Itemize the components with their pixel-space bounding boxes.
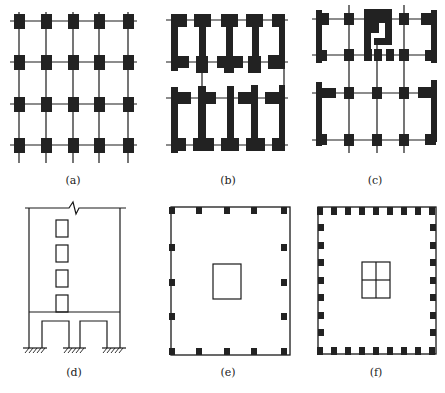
caption-a: (a) [65, 174, 80, 187]
caption-e: (e) [220, 366, 235, 379]
panel-d-elevation [23, 202, 126, 353]
caption-d: (d) [66, 366, 82, 379]
caption-c: (c) [368, 174, 383, 187]
panel-f-tube-in-tube-plan [317, 207, 436, 355]
panel-b-shear-wall-plan [166, 14, 288, 153]
panel-e-framed-tube-plan [169, 207, 290, 355]
structural-systems-figure [0, 0, 445, 393]
panel-c-frame-shear-wall-plan [312, 5, 437, 153]
fixed-support-hatch [23, 348, 126, 353]
caption-f: (f) [370, 366, 383, 379]
panel-a-frame-plan [10, 12, 137, 163]
caption-b: (b) [220, 174, 236, 187]
